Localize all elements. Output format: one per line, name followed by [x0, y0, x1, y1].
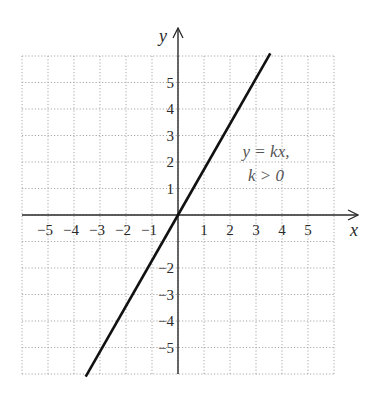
- y-tick-label: −5: [158, 340, 174, 356]
- x-axis-label: x: [349, 220, 358, 240]
- x-tick-label: −2: [115, 222, 131, 238]
- y-tick-label: 2: [167, 154, 175, 170]
- x-tick-label: 5: [304, 222, 312, 238]
- y-tick-label: 3: [167, 128, 175, 144]
- x-tick-label: −4: [63, 222, 79, 238]
- y-tick-label: 5: [167, 75, 175, 91]
- y-tick-label: −4: [158, 313, 174, 329]
- x-tick-label: 4: [278, 222, 286, 238]
- chart: x y −5−4−3−2−112345 54321−2−3−4−5 y = kx…: [0, 0, 380, 395]
- x-tick-label: −3: [89, 222, 105, 238]
- x-tick-label: 1: [200, 222, 208, 238]
- x-tick-label: −5: [37, 222, 53, 238]
- y-tick-label: 4: [167, 101, 175, 117]
- y-tick-label: −3: [158, 287, 174, 303]
- annotation-line1: y = kx,: [241, 142, 290, 161]
- y-tick-label: −2: [158, 260, 174, 276]
- x-tick-label: 2: [226, 222, 234, 238]
- x-tick-label: 3: [252, 222, 260, 238]
- y-axis-label: y: [157, 26, 167, 46]
- annotation: y = kx, k > 0: [241, 142, 290, 185]
- annotation-line2: k > 0: [248, 166, 285, 185]
- x-tick-labels: −5−4−3−2−112345: [37, 222, 312, 238]
- x-tick-label: −1: [141, 222, 157, 238]
- y-tick-label: 1: [167, 181, 175, 197]
